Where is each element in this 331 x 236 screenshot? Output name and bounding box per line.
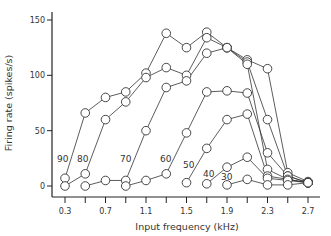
data-point-70: [182, 77, 191, 86]
data-point-80: [121, 98, 130, 107]
data-point-70: [162, 83, 171, 92]
data-point-80: [162, 63, 171, 72]
data-point-80: [81, 170, 90, 179]
data-point-80: [101, 115, 110, 124]
data-point-70: [101, 176, 110, 185]
x-tick-label: 2.7: [302, 207, 315, 216]
data-point-40: [202, 179, 211, 188]
data-point-60: [121, 182, 130, 191]
firing-rate-chart: 050100150 0.30.71.11.51.92.32.7 90807060…: [0, 0, 331, 236]
data-point-80: [202, 33, 211, 42]
series-label-30: 30: [221, 172, 233, 182]
data-point-90: [263, 64, 272, 73]
data-point-50: [243, 110, 252, 119]
data-point-70: [243, 60, 252, 69]
data-point-80: [142, 73, 151, 82]
x-tick-label: 1.5: [180, 207, 193, 216]
x-tick-label: 1.1: [140, 207, 153, 216]
data-point-30: [243, 175, 252, 184]
data-point-50: [202, 144, 211, 153]
data-point-60: [182, 129, 191, 138]
data-point-30: [283, 181, 292, 190]
data-point-60: [202, 88, 211, 97]
data-point-70: [223, 43, 232, 52]
x-ticks: 0.30.71.11.51.92.32.7: [59, 197, 315, 216]
x-tick-label: 2.3: [261, 207, 274, 216]
data-point-50: [223, 115, 232, 124]
series-label-70: 70: [120, 154, 132, 164]
data-point-90: [182, 43, 191, 52]
y-axis-title: Firing rate (spikes/s): [3, 55, 14, 151]
y-tick-label: 100: [30, 71, 45, 80]
data-point-60: [223, 87, 232, 96]
data-point-70: [142, 126, 151, 135]
data-point-40: [243, 153, 252, 162]
y-tick-label: 0: [40, 182, 45, 191]
data-point-60: [243, 89, 252, 98]
data-point-90: [81, 109, 90, 118]
data-point-90: [101, 93, 110, 102]
data-point-60: [162, 170, 171, 179]
data-point-50: [182, 178, 191, 187]
data-point-90: [121, 88, 130, 97]
data-point-70: [81, 182, 90, 191]
y-ticks: 050100150: [30, 16, 52, 191]
data-point-70: [202, 49, 211, 58]
y-tick-label: 150: [30, 16, 45, 25]
x-tick-label: 1.9: [221, 207, 234, 216]
x-axis-title: Input frequency (kHz): [135, 221, 238, 232]
x-tick-label: 0.7: [99, 207, 112, 216]
data-point-80: [263, 115, 272, 124]
series-label-80: 80: [77, 154, 89, 164]
series-line-60: [126, 91, 308, 186]
data-point-60: [263, 149, 272, 158]
data-point-80: [61, 182, 70, 191]
series-label-50: 50: [183, 160, 195, 170]
data-point-60: [142, 176, 151, 185]
data-point-90: [162, 29, 171, 38]
series-label-40: 40: [203, 169, 215, 179]
x-tick-label: 0.3: [59, 207, 72, 216]
data-point-40: [223, 163, 232, 172]
y-tick-label: 50: [35, 127, 45, 136]
series-label-90: 90: [57, 154, 69, 164]
series-label-60: 60: [160, 154, 172, 164]
data-point-30: [304, 178, 313, 187]
data-point-30: [263, 181, 272, 190]
